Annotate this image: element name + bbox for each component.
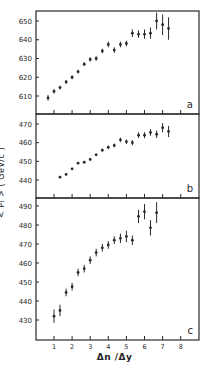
- y-tick-label: 440: [19, 298, 32, 306]
- x-axis-label: Δn /Δy: [0, 352, 209, 362]
- data-point: [113, 49, 116, 52]
- data-point: [155, 20, 158, 23]
- data-point: [167, 130, 170, 133]
- data-point: [101, 50, 104, 53]
- data-point: [125, 235, 128, 238]
- y-tick-label: 450: [19, 158, 32, 166]
- y-axis-label: < Pₜ > ( GeV/c ): [0, 147, 6, 218]
- data-point: [71, 167, 74, 170]
- y-tick-label: 490: [19, 203, 32, 211]
- y-tick-label: 650: [19, 18, 32, 26]
- data-point: [137, 33, 140, 36]
- y-tick-label: 460: [19, 260, 32, 268]
- data-point: [149, 131, 152, 134]
- data-point: [155, 133, 158, 136]
- data-point: [71, 76, 74, 79]
- panel-label: c: [188, 325, 194, 336]
- data-point: [83, 267, 86, 270]
- data-point: [95, 251, 98, 254]
- data-point: [119, 237, 122, 240]
- data-point: [149, 32, 152, 35]
- data-point: [149, 226, 152, 229]
- panel-label: a: [187, 99, 193, 110]
- data-point: [59, 86, 62, 89]
- data-point: [161, 23, 164, 26]
- data-point: [107, 43, 110, 46]
- data-point: [119, 138, 122, 141]
- y-tick-label: 450: [19, 279, 32, 287]
- data-point: [65, 173, 68, 176]
- panel-a-frame: [36, 11, 199, 114]
- panel-b-frame: [36, 114, 199, 198]
- x-tick-label: 3: [88, 343, 92, 351]
- data-point: [143, 210, 146, 213]
- data-point: [125, 42, 128, 45]
- data-point: [155, 211, 158, 214]
- data-point: [77, 70, 80, 73]
- data-point: [89, 259, 92, 262]
- data-point: [65, 81, 68, 84]
- panel-label: b: [187, 183, 193, 194]
- data-point: [89, 158, 92, 161]
- data-point: [125, 140, 128, 143]
- data-point: [113, 144, 116, 147]
- data-point: [131, 239, 134, 242]
- data-point: [53, 90, 56, 93]
- data-point: [107, 146, 110, 149]
- data-point: [161, 126, 164, 129]
- data-point: [89, 58, 92, 61]
- data-point: [137, 134, 140, 137]
- data-point: [65, 291, 68, 294]
- data-point: [113, 239, 116, 242]
- y-tick-label: 480: [19, 222, 32, 230]
- data-point: [59, 176, 62, 179]
- data-point: [107, 244, 110, 247]
- y-tick-label: 440: [19, 177, 32, 185]
- x-tick-label: 7: [161, 343, 165, 351]
- x-tick-label: 4: [106, 343, 110, 351]
- y-tick-label: 470: [19, 241, 32, 249]
- data-point: [167, 27, 170, 30]
- x-tick-label: 6: [142, 343, 146, 351]
- data-point: [71, 285, 74, 288]
- data-point: [77, 162, 80, 165]
- y-tick-label: 610: [19, 93, 32, 101]
- data-point: [137, 215, 140, 218]
- x-tick-label: 1: [52, 343, 56, 351]
- data-point: [83, 63, 86, 66]
- data-point: [59, 309, 62, 312]
- y-tick-label: 430: [19, 317, 32, 325]
- chart-figure: 610620630640650a440450460470b43044045046…: [0, 0, 209, 370]
- y-tick-label: 470: [19, 121, 32, 129]
- data-point: [131, 141, 134, 144]
- data-point: [101, 246, 104, 249]
- data-point: [101, 149, 104, 152]
- y-tick-label: 460: [19, 139, 32, 147]
- data-point: [83, 161, 86, 164]
- data-point: [47, 96, 50, 99]
- data-point: [53, 315, 56, 318]
- y-tick-label: 620: [19, 74, 32, 82]
- x-tick-label: 2: [70, 343, 74, 351]
- x-tick-label: 5: [124, 343, 128, 351]
- data-point: [143, 134, 146, 137]
- data-point: [131, 32, 134, 35]
- y-tick-label: 630: [19, 55, 32, 63]
- y-tick-label: 640: [19, 36, 32, 44]
- panel-c-frame: [36, 198, 199, 340]
- data-point: [95, 57, 98, 60]
- data-point: [119, 43, 122, 46]
- x-tick-label: 8: [179, 343, 183, 351]
- data-point: [95, 153, 98, 156]
- data-point: [143, 33, 146, 36]
- data-point: [77, 271, 80, 274]
